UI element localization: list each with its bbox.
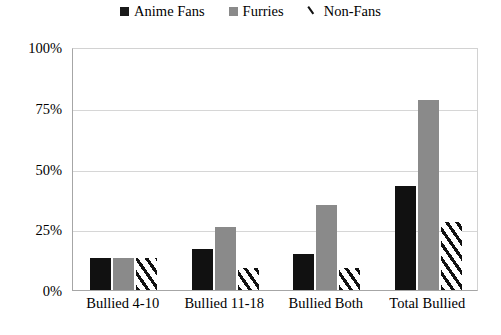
legend-label-non-fans: Non-Fans	[324, 4, 381, 19]
bar-anime-fans-bullied-both	[293, 254, 314, 290]
y-tick-label: 75%	[0, 102, 62, 117]
bar-non-fans-bullied-11-18	[238, 268, 259, 290]
x-tick-label: Bullied Both	[275, 296, 377, 320]
x-axis-labels: Bullied 4-10Bullied 11-18Bullied BothTot…	[72, 296, 478, 320]
legend-item-furries: Furries	[229, 4, 284, 19]
y-axis-labels: 0%25%50%75%100%	[0, 0, 66, 335]
y-tick-label: 0%	[0, 284, 62, 299]
bars-layer	[73, 49, 477, 290]
legend-label-furries: Furries	[243, 4, 284, 19]
legend-swatch-hatch-icon	[308, 6, 319, 17]
bar-non-fans-total-bullied	[441, 222, 462, 290]
y-tick-label: 25%	[0, 223, 62, 238]
bar-non-fans-bullied-4-10	[136, 258, 157, 290]
legend-swatch-black-square-icon	[120, 7, 129, 16]
y-tick-label: 50%	[0, 163, 62, 178]
bar-furries-bullied-4-10	[113, 258, 134, 290]
y-tick-label: 100%	[0, 41, 62, 56]
chart-legend: Anime Fans Furries Non-Fans	[0, 4, 501, 19]
bar-anime-fans-total-bullied	[395, 186, 416, 290]
bar-anime-fans-bullied-11-18	[192, 249, 213, 290]
bar-non-fans-bullied-both	[339, 268, 360, 290]
x-tick-label: Bullied 11-18	[174, 296, 276, 320]
bar-furries-bullied-both	[316, 205, 337, 290]
bar-furries-total-bullied	[418, 100, 439, 290]
legend-label-anime-fans: Anime Fans	[134, 4, 204, 19]
legend-item-anime-fans: Anime Fans	[120, 4, 204, 19]
bar-anime-fans-bullied-4-10	[90, 258, 111, 290]
plot-area	[72, 48, 478, 291]
legend-swatch-gray-square-icon	[229, 7, 238, 16]
legend-item-non-fans: Non-Fans	[308, 4, 381, 19]
x-tick-label: Total Bullied	[377, 296, 479, 320]
bar-furries-bullied-11-18	[215, 227, 236, 290]
bar-chart: Anime Fans Furries Non-Fans 0%25%50%75%1…	[0, 0, 501, 335]
x-tick-label: Bullied 4-10	[72, 296, 174, 320]
